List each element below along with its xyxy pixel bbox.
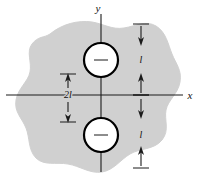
y-axis-label: y (95, 2, 101, 14)
figure-container: x y l l 2 (0, 0, 205, 184)
lower-dim-label: l (140, 129, 143, 140)
cross-section-diagram: x y l l 2 (0, 0, 205, 184)
spacing-dim-label: 2l (64, 89, 72, 100)
upper-dim-label: l (140, 54, 143, 65)
x-axis-label: x (187, 89, 193, 101)
